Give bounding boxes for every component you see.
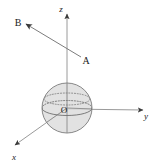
x-axis-label: x <box>11 152 16 162</box>
vector-ab-group <box>26 24 81 57</box>
point-label-a: A <box>82 55 90 66</box>
y-axis-label: y <box>143 111 148 121</box>
origin-label-o: O <box>61 105 68 115</box>
figure-canvas: · · · · · · · · <box>0 0 161 166</box>
point-label-b: B <box>15 17 22 28</box>
vector-ab-line <box>26 24 81 57</box>
z-axis-label: z <box>58 4 63 14</box>
coordinate-sphere-diagram: z y x O A B <box>0 0 161 166</box>
